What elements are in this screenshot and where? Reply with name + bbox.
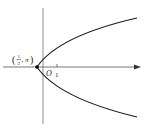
parabola-curve xyxy=(37,18,137,117)
svg-text:,: , xyxy=(22,56,24,64)
arrow-right-icon xyxy=(134,65,141,70)
svg-text:): ) xyxy=(30,54,33,66)
svg-text:1: 1 xyxy=(18,54,21,59)
svg-text:2: 2 xyxy=(18,61,21,66)
svg-text:π: π xyxy=(25,56,29,64)
vertex-point xyxy=(35,65,39,69)
diagram-canvas: ( 1 2 , π ) O 1 xyxy=(0,0,144,128)
origin-label: O xyxy=(46,69,52,78)
tick-label-one: 1 xyxy=(55,71,59,79)
svg-text:(: ( xyxy=(12,54,16,66)
point-label: ( 1 2 , π ) xyxy=(12,54,33,66)
